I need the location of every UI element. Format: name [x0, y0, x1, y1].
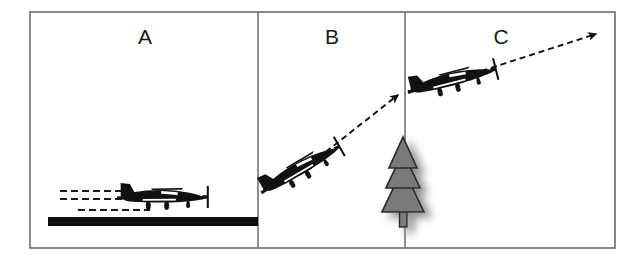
figure-frame — [30, 12, 615, 248]
panel-label-a: A — [138, 25, 152, 48]
runway-bar — [48, 217, 258, 226]
figure-canvas: A B C — [0, 0, 637, 262]
takeoff-sequence-figure: A B C — [0, 0, 637, 262]
panel-label-b: B — [325, 25, 339, 48]
panel-label-c: C — [493, 25, 508, 48]
